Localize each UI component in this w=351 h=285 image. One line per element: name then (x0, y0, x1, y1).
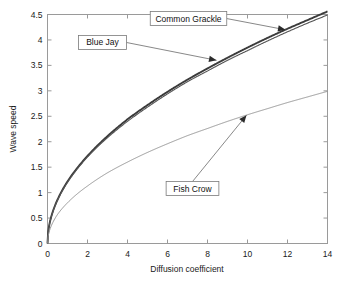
y-tick-label: 1.5 (31, 162, 43, 172)
x-axis-label: Diffusion coefficient (150, 264, 224, 274)
y-tick-label: 2.5 (31, 111, 43, 121)
annotation-arrowhead (209, 56, 217, 62)
figure-container: 02468101214 00.511.522.533.544.5 Diffusi… (0, 0, 351, 285)
wave-speed-vs-diffusion-chart: 02468101214 00.511.522.533.544.5 Diffusi… (0, 0, 351, 285)
y-tick-label: 3 (38, 86, 43, 96)
annotation-label: Blue Jay (86, 37, 119, 47)
y-tick-label: 1 (38, 188, 43, 198)
x-tick-label: 8 (205, 249, 210, 259)
x-tick-label: 6 (165, 249, 170, 259)
x-tick-label: 14 (323, 249, 333, 259)
x-tick-label: 10 (243, 249, 253, 259)
chart-annotations: Common GrackleBlue JayFish Crow (79, 12, 286, 196)
series-line-fish-crow (48, 91, 328, 243)
y-axis-label: Wave speed (8, 105, 18, 152)
y-tick-label: 2 (38, 137, 43, 147)
y-tick-label: 4 (38, 35, 43, 45)
annotation-leader-line (227, 19, 286, 30)
annotation-label: Common Grackle (155, 14, 221, 24)
x-tick-label: 4 (125, 249, 130, 259)
annotation-leader-line (127, 42, 217, 60)
annotation-label: Fish Crow (173, 184, 212, 194)
y-axis-ticks: 00.511.522.533.544.5 (31, 10, 328, 249)
x-tick-label: 12 (283, 249, 293, 259)
x-axis-ticks: 02468101214 (45, 15, 332, 259)
y-tick-label: 0 (38, 239, 43, 249)
y-tick-label: 4.5 (31, 10, 43, 20)
x-tick-label: 0 (45, 249, 50, 259)
y-tick-label: 0.5 (31, 213, 43, 223)
y-tick-label: 3.5 (31, 60, 43, 70)
annotation-leader-line (193, 115, 247, 181)
x-tick-label: 2 (85, 249, 90, 259)
